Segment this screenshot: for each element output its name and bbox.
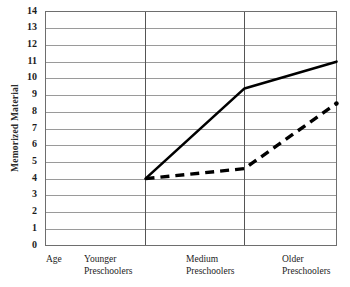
x-axis-labels: Age Younger Preschoolers Medium Preschoo…: [0, 252, 350, 286]
gridlines: [46, 29, 337, 230]
series-line-dashed-line: [146, 103, 337, 178]
x-label-medium-preschoolers: Medium Preschoolers: [186, 253, 235, 277]
x-label-medium-line2: Preschoolers: [186, 265, 235, 277]
plot-frame: [46, 12, 337, 246]
x-label-older-preschoolers: Older Preschoolers: [282, 253, 331, 277]
category-dividers: [146, 12, 245, 246]
x-label-older-line2: Preschoolers: [282, 265, 331, 277]
x-label-age-line1: Age: [46, 253, 62, 265]
x-label-medium-line1: Medium: [186, 253, 235, 265]
x-label-younger-preschoolers: Younger Preschoolers: [84, 253, 133, 277]
series-line-solid-line: [146, 62, 337, 179]
data-series: [146, 62, 339, 179]
x-label-age: Age: [46, 253, 62, 265]
x-label-younger-line1: Younger: [84, 253, 133, 265]
plot-area: [0, 0, 350, 287]
line-chart: Memorized Material 14131211109876543210 …: [0, 0, 350, 287]
x-label-older-line1: Older: [282, 253, 331, 265]
series-endpoint-marker: [334, 101, 338, 105]
x-label-younger-line2: Preschoolers: [84, 265, 133, 277]
